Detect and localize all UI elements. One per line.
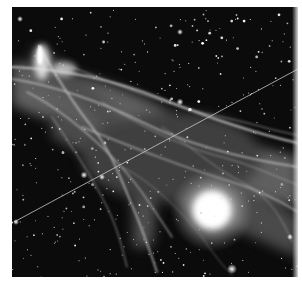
star xyxy=(193,165,194,166)
star xyxy=(133,239,134,240)
star xyxy=(274,117,275,118)
star xyxy=(18,40,19,41)
star xyxy=(144,131,145,132)
star xyxy=(288,60,291,63)
star xyxy=(82,206,85,209)
star xyxy=(170,97,173,100)
star xyxy=(55,74,56,75)
star xyxy=(146,109,147,110)
star xyxy=(204,272,206,274)
star xyxy=(58,116,59,117)
star xyxy=(52,149,54,151)
star xyxy=(130,81,131,82)
star xyxy=(111,98,112,99)
star xyxy=(174,44,177,47)
star xyxy=(237,18,239,20)
star xyxy=(203,14,205,16)
star xyxy=(72,18,73,19)
star xyxy=(22,75,23,76)
star xyxy=(154,135,156,137)
star xyxy=(95,187,96,188)
star xyxy=(74,245,76,247)
star xyxy=(255,242,256,243)
star xyxy=(261,232,262,233)
star xyxy=(146,242,147,243)
star xyxy=(153,253,154,254)
star xyxy=(63,211,64,212)
star xyxy=(163,262,165,264)
star xyxy=(36,182,37,183)
star xyxy=(285,267,286,268)
star xyxy=(22,164,24,166)
star xyxy=(165,146,166,147)
star xyxy=(45,131,46,132)
star xyxy=(237,165,238,166)
star xyxy=(231,263,232,264)
star xyxy=(143,215,144,216)
star xyxy=(272,40,273,41)
star xyxy=(51,127,53,129)
star xyxy=(57,43,58,44)
star xyxy=(220,198,221,199)
star xyxy=(91,183,94,186)
star xyxy=(135,19,136,20)
star xyxy=(104,142,107,145)
star xyxy=(126,162,128,164)
star xyxy=(94,219,95,220)
star xyxy=(105,85,106,86)
star xyxy=(100,271,101,272)
star xyxy=(122,94,123,95)
star xyxy=(183,264,185,266)
star xyxy=(64,50,65,51)
star xyxy=(130,179,131,180)
star xyxy=(98,105,99,106)
star xyxy=(220,73,222,75)
star xyxy=(170,246,172,248)
star xyxy=(209,228,210,229)
star xyxy=(217,62,218,63)
star xyxy=(261,222,262,223)
star xyxy=(158,178,159,179)
star xyxy=(130,148,131,149)
star xyxy=(59,38,60,39)
star xyxy=(132,88,133,89)
star xyxy=(191,183,192,184)
star xyxy=(54,243,55,244)
star xyxy=(205,18,206,19)
star xyxy=(229,268,230,269)
star xyxy=(74,191,76,193)
star xyxy=(148,254,149,255)
star xyxy=(47,216,48,217)
star xyxy=(238,167,239,168)
star xyxy=(248,272,249,273)
star xyxy=(217,57,219,59)
star xyxy=(192,25,194,27)
star xyxy=(93,78,94,79)
star xyxy=(56,234,58,236)
star xyxy=(206,10,207,11)
star xyxy=(288,197,289,198)
star xyxy=(211,185,212,186)
star xyxy=(122,254,123,255)
star xyxy=(256,155,258,157)
star xyxy=(59,96,60,97)
star xyxy=(184,177,185,178)
star xyxy=(215,55,217,57)
star xyxy=(230,198,231,199)
star xyxy=(78,260,79,261)
star xyxy=(143,239,144,240)
star xyxy=(203,260,204,261)
star xyxy=(289,195,290,196)
star xyxy=(254,195,255,196)
star xyxy=(14,240,15,241)
star xyxy=(255,133,256,134)
star xyxy=(155,272,156,273)
right-edge-fade xyxy=(292,7,298,277)
star xyxy=(161,154,162,155)
star xyxy=(13,144,15,146)
star xyxy=(204,169,205,170)
star xyxy=(280,152,281,153)
star xyxy=(242,260,243,261)
star xyxy=(31,165,32,166)
star xyxy=(172,179,173,180)
